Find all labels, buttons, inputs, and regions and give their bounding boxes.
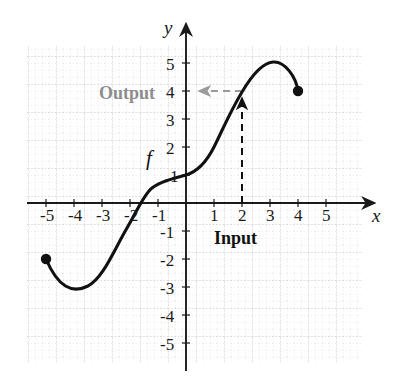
y-tick-label-2: 2 bbox=[166, 140, 175, 157]
output-annotation-label: Output bbox=[99, 84, 155, 102]
x-tick-label--4: -4 bbox=[68, 207, 82, 224]
x-tick-label-5: 5 bbox=[322, 207, 331, 224]
y-tick-label-1: 1 bbox=[170, 168, 179, 185]
x-tick-label-4: 4 bbox=[294, 207, 303, 224]
x-tick-label-2: 2 bbox=[238, 207, 247, 224]
y-tick-label--4: -4 bbox=[160, 308, 174, 325]
function-graph-svg bbox=[0, 0, 398, 379]
y-axis-label: y bbox=[164, 18, 172, 37]
y-tick-label--1: -1 bbox=[160, 224, 174, 241]
y-tick-label--5: -5 bbox=[160, 336, 174, 353]
y-tick-label-3: 3 bbox=[166, 112, 175, 129]
y-tick-label--3: -3 bbox=[160, 280, 174, 297]
x-axis-label: x bbox=[372, 206, 380, 225]
x-tick-label--1: -1 bbox=[152, 207, 166, 224]
y-tick-label-5: 5 bbox=[166, 56, 175, 73]
right-endpoint-dot bbox=[293, 86, 303, 96]
x-tick-label--2: -2 bbox=[124, 207, 138, 224]
left-endpoint-dot bbox=[41, 254, 51, 264]
input-annotation-label: Input bbox=[214, 229, 257, 247]
y-tick-label-4: 4 bbox=[166, 84, 175, 101]
grid-lines bbox=[27, 46, 363, 363]
function-curve-label: f bbox=[146, 148, 152, 169]
x-tick-label-1: 1 bbox=[210, 207, 219, 224]
graph-figure-page: -5 -4 -3 -2 -1 1 2 3 4 5 5 4 3 2 1 -1 -2… bbox=[0, 0, 398, 379]
y-tick-label--2: -2 bbox=[160, 252, 174, 269]
x-tick-label--3: -3 bbox=[96, 207, 110, 224]
x-tick-label-3: 3 bbox=[266, 207, 275, 224]
x-tick-label--5: -5 bbox=[40, 207, 54, 224]
